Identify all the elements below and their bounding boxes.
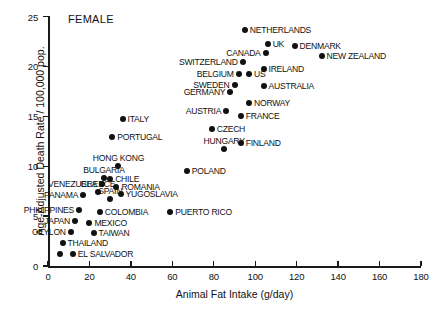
data-point-label: BELGIUM: [197, 70, 234, 79]
x-tick-label: 60: [167, 271, 177, 282]
x-tick-mark: [172, 261, 173, 266]
x-tick-label: 0: [45, 271, 50, 282]
data-point-label: CZECH: [217, 125, 245, 134]
data-point: [227, 89, 233, 95]
data-point: [236, 71, 242, 77]
data-point: [292, 43, 298, 49]
data-point-label: FRANCE: [246, 112, 280, 121]
data-point-label: GERMANY: [184, 88, 226, 97]
data-point-label: POLAND: [192, 167, 226, 176]
data-point: [167, 209, 173, 215]
x-tick-label: 140: [330, 271, 345, 282]
data-point-label: IRELAND: [269, 65, 305, 74]
y-tick-mark: [43, 265, 48, 266]
data-point: [80, 192, 86, 198]
y-tick-mark: [43, 16, 48, 17]
data-point-label: DENMARK: [300, 42, 341, 51]
data-point-label: NETHERLANDS: [250, 26, 311, 35]
data-point: [261, 83, 267, 89]
x-axis-line: [48, 266, 421, 268]
x-tick-label: 20: [84, 271, 94, 282]
data-point: [209, 126, 215, 132]
x-tick-mark: [420, 261, 421, 266]
data-point-label: YUGOSLAVIA: [126, 190, 178, 199]
data-point: [107, 196, 113, 202]
data-point-label: PORTUGAL: [117, 133, 162, 142]
data-point-label: THAILAND: [68, 239, 109, 248]
data-point: [72, 218, 78, 224]
data-point-label: PHILIPPINES: [24, 206, 74, 215]
x-tick-label: 160: [372, 271, 387, 282]
x-tick-label: 80: [209, 271, 219, 282]
data-point-label: US: [254, 70, 265, 79]
x-tick-label: 180: [413, 271, 428, 282]
data-point: [57, 251, 63, 257]
data-point: [265, 41, 271, 47]
data-point: [91, 230, 97, 236]
data-point-label: NORWAY: [254, 99, 290, 108]
data-point-label: AUSTRALIA: [269, 82, 315, 91]
data-point: [97, 209, 103, 215]
data-point: [70, 251, 76, 257]
data-point-label: PANAMA: [44, 191, 78, 200]
data-point: [184, 168, 190, 174]
x-tick-mark: [255, 261, 256, 266]
x-tick-mark: [213, 261, 214, 266]
data-point: [109, 134, 115, 140]
data-point: [246, 71, 252, 77]
data-point-label: SWITZERLAND: [179, 58, 238, 67]
data-point-label: SPAIN: [98, 187, 122, 196]
data-point-label: AUSTRIA: [186, 107, 222, 116]
data-point-label: COLOMBIA: [105, 208, 148, 217]
data-point: [319, 53, 325, 59]
x-tick-mark: [130, 261, 131, 266]
data-point-label: FINLAND: [246, 139, 281, 148]
data-point: [60, 240, 66, 246]
x-tick-label: 100: [248, 271, 263, 282]
x-axis-title: Animal Fat Intake (g/day): [48, 288, 421, 300]
x-tick-label: 40: [126, 271, 136, 282]
y-axis-title: Age-Adjusted Death Rate / 100,000 pop.: [34, 24, 46, 259]
x-tick-mark: [337, 261, 338, 266]
data-point-label: MEXICO: [94, 219, 126, 228]
panel-label: FEMALE: [68, 13, 114, 25]
y-tick-label: 0: [14, 261, 38, 272]
data-point-label: ITALY: [128, 115, 149, 124]
data-point: [68, 229, 74, 235]
data-point: [223, 108, 229, 114]
data-point-label: NEW ZEALAND: [327, 52, 386, 61]
data-point-label: PUERTO RICO: [175, 208, 232, 217]
data-point: [246, 100, 252, 106]
x-tick-mark: [89, 261, 90, 266]
data-point-label: UK: [273, 40, 284, 49]
data-point: [76, 207, 82, 213]
data-point: [120, 116, 126, 122]
x-tick-mark: [379, 261, 380, 266]
data-point: [221, 146, 227, 152]
data-point: [232, 82, 238, 88]
data-point-label: TAIWAN: [99, 229, 130, 238]
data-point-label: HUNGARY: [204, 137, 245, 146]
y-tick-label: 25: [14, 11, 38, 22]
data-point: [263, 50, 269, 56]
data-point-label: HONG KONG: [93, 154, 144, 163]
data-point-label: JAPAN: [44, 217, 70, 226]
scatter-chart: FEMALE 020406080100120140160180 05101520…: [0, 0, 444, 314]
data-point: [86, 220, 92, 226]
x-tick-mark: [296, 261, 297, 266]
data-point-label: EL SALVADOR: [78, 250, 133, 259]
data-point: [240, 59, 246, 65]
data-point: [242, 27, 248, 33]
data-point: [238, 113, 244, 119]
x-tick-label: 120: [289, 271, 304, 282]
